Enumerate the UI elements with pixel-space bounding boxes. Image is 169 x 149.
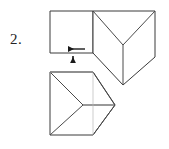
origami-fold-diagram: [0, 0, 169, 149]
top-left-square-outline: [50, 11, 93, 53]
bottom-folded-figure: [50, 72, 115, 135]
figure-container: 2.: [0, 0, 169, 149]
top-left-square-face: [50, 11, 93, 53]
top-right-folded-face: [93, 11, 155, 85]
